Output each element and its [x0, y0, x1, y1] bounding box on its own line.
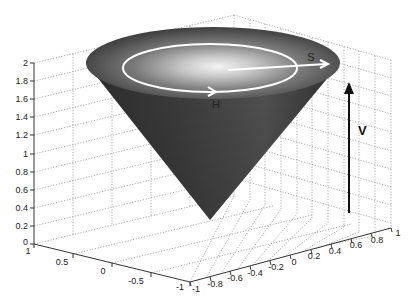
y-tick-label: 0 [100, 266, 105, 276]
x-tick-label: 1 [395, 228, 400, 238]
z-tick-label: 0.8 [15, 167, 28, 177]
x-tick-label: -0.6 [227, 273, 243, 283]
x-tick-label: 0.8 [371, 235, 384, 245]
value-arrow-icon [344, 82, 354, 94]
x-tick-label: 0 [291, 257, 296, 267]
hue-label: H [212, 98, 220, 110]
x-tick-label: -0.2 [268, 262, 284, 272]
x-tick-label: -0.4 [247, 268, 263, 278]
x-tick-label: -0.8 [207, 279, 223, 289]
z-tick-label: 1.2 [15, 130, 28, 140]
x-tick-label: 0.4 [329, 246, 342, 256]
z-tick-label: 0.6 [15, 185, 28, 195]
z-tick-label: 0.2 [15, 221, 28, 231]
y-axis-tick-labels: 1 0.5 0 -0.5 -1 [25, 246, 184, 292]
z-axis-ticks [30, 63, 34, 244]
z-tick-label: 0.4 [15, 203, 28, 213]
x-tick-label: 0.6 [350, 240, 363, 250]
saturation-label: S [307, 51, 314, 63]
x-axis-tick-labels: -1 -0.8 -0.6 -0.4 -0.2 0 0.2 0.4 0.6 0.8… [192, 228, 401, 294]
y-tick-label: -0.5 [128, 276, 144, 286]
z-tick-label: 1.8 [15, 76, 28, 86]
y-tick-label: 0.5 [56, 257, 69, 267]
z-tick-label: 1.4 [15, 112, 28, 122]
x-tick-label: -1 [192, 284, 200, 294]
hsv-cone-chart: 2 1.8 1.6 1.4 1.2 1 0.8 0.6 0.4 0.2 0 1 … [0, 0, 409, 305]
z-tick-label: 1.6 [15, 94, 28, 104]
value-label: V [358, 123, 367, 138]
y-tick-label: 1 [25, 246, 30, 256]
y-tick-label: -1 [176, 282, 184, 292]
z-tick-label: 1 [23, 149, 28, 159]
x-tick-label: 0.2 [308, 251, 321, 261]
z-tick-label: 2 [23, 58, 28, 68]
cone-surface [86, 27, 340, 220]
z-axis-tick-labels: 2 1.8 1.6 1.4 1.2 1 0.8 0.6 0.4 0.2 0 [15, 58, 28, 247]
